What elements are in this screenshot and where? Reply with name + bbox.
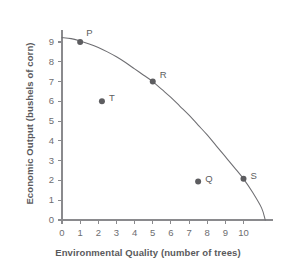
data-point-r	[150, 79, 156, 85]
x-tick-label: 9	[217, 227, 233, 238]
y-tick-label: 9	[40, 36, 54, 47]
data-point-q	[195, 178, 201, 184]
axes	[58, 30, 273, 224]
point-label-t: T	[109, 92, 115, 103]
data-points	[77, 39, 246, 184]
x-tick-label: 8	[199, 227, 215, 238]
y-tick-label: 1	[40, 194, 54, 205]
x-tick-label: 0	[54, 227, 70, 238]
x-tick-label: 3	[108, 227, 124, 238]
data-point-p	[77, 39, 83, 45]
point-label-p: P	[86, 27, 92, 38]
chart-container: 0123456789012345678910 PRTQS Economic Ou…	[0, 0, 296, 269]
y-tick-label: 6	[40, 95, 54, 106]
point-label-r: R	[160, 69, 167, 80]
data-point-t	[99, 98, 105, 104]
x-tick-label: 2	[90, 227, 106, 238]
y-tick-label: 8	[40, 56, 54, 67]
y-tick-label: 7	[40, 76, 54, 87]
point-label-q: Q	[205, 173, 212, 184]
y-tick-label: 3	[40, 155, 54, 166]
x-axis-title: Environmental Quality (number of trees)	[0, 247, 296, 258]
x-tick-label: 5	[145, 227, 161, 238]
y-tick-label: 0	[40, 214, 54, 225]
y-tick-label: 4	[40, 135, 54, 146]
point-label-s: S	[251, 170, 257, 181]
x-tick-label: 4	[127, 227, 143, 238]
frontier-curve	[62, 38, 265, 220]
x-tick-label: 1	[72, 227, 88, 238]
y-tick-label: 2	[40, 174, 54, 185]
y-axis-title: Economic Output (bushels of corn)	[24, 24, 35, 224]
x-tick-label: 7	[181, 227, 197, 238]
data-point-s	[241, 176, 247, 182]
x-tick-label: 10	[236, 227, 252, 238]
y-tick-label: 5	[40, 115, 54, 126]
frontier-curve-path	[62, 38, 265, 220]
x-tick-label: 6	[163, 227, 179, 238]
